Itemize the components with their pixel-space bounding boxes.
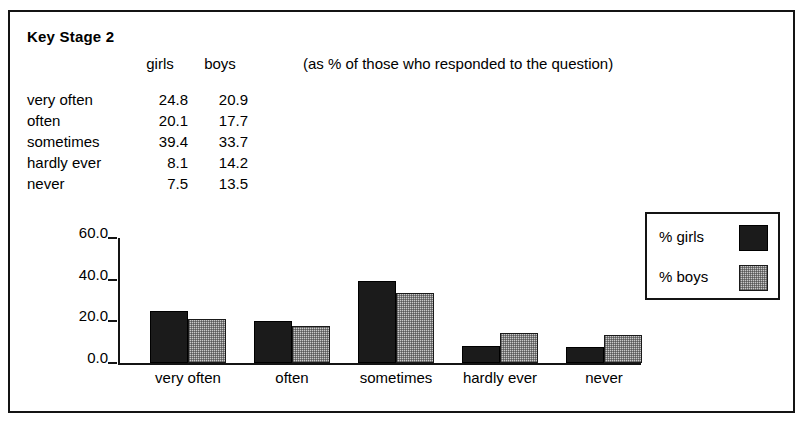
bar-group: [566, 238, 642, 363]
bar-boys: [396, 293, 434, 363]
bar-girls: [150, 311, 188, 363]
legend-item-girls: % girls: [647, 218, 778, 258]
y-tick-text: 40.0: [54, 267, 108, 282]
y-tick-label: 0.0: [44, 350, 108, 365]
bar-boys: [604, 335, 642, 363]
legend-label-boys: % boys: [659, 268, 708, 285]
bars-layer: [120, 238, 641, 363]
bar-group: [358, 238, 434, 363]
y-tick-label: 40.0: [44, 267, 108, 282]
y-tick-text: 20.0: [54, 308, 108, 323]
chart-legend: % girls % boys: [645, 212, 780, 300]
bar-group: [150, 238, 226, 363]
bar-group: [254, 238, 330, 363]
bar-boys: [500, 333, 538, 363]
x-axis-label: sometimes: [338, 369, 454, 386]
y-tick-mark: [108, 279, 117, 281]
x-axis-label: often: [234, 369, 350, 386]
y-tick-text: 60.0: [54, 225, 108, 240]
y-tick-mark: [108, 320, 117, 322]
bar-girls: [462, 346, 500, 363]
x-axis-label: hardly ever: [442, 369, 558, 386]
legend-item-boys: % boys: [647, 258, 778, 298]
x-axis: [118, 363, 641, 365]
y-tick-text: 0.0: [54, 350, 108, 365]
figure: Key Stage 2 girls boys (as % of those wh…: [0, 0, 811, 426]
x-axis-label: never: [546, 369, 662, 386]
bar-girls: [566, 347, 604, 363]
legend-swatch-girls-icon: [739, 225, 768, 251]
x-axis-label: very often: [130, 369, 246, 386]
bar-girls: [358, 281, 396, 363]
y-tick-label: 20.0: [44, 308, 108, 323]
bar-boys: [292, 326, 330, 363]
y-tick-mark: [108, 237, 117, 239]
bar-group: [462, 238, 538, 363]
legend-label-girls: % girls: [659, 228, 704, 245]
legend-swatch-boys-icon: [739, 265, 768, 291]
bar-boys: [188, 319, 226, 363]
y-tick-label: 60.0: [44, 225, 108, 240]
bar-girls: [254, 321, 292, 363]
y-tick-mark: [108, 362, 117, 364]
